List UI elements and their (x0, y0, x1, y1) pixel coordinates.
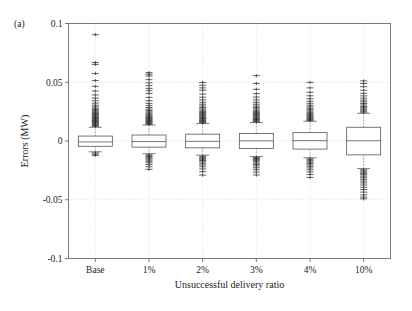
x-tick-label: 1% (143, 265, 156, 275)
x-tick-label: Base (86, 265, 104, 275)
y-tick-label: -0.05 (43, 195, 63, 205)
x-tick-label: 4% (304, 265, 317, 275)
y-axis-title: Errors (MW) (19, 115, 31, 167)
boxplot-chart: 0.10.050-0.05-0.1Base1%2%3%4%10%Unsucces… (0, 0, 412, 311)
box-iqr (132, 135, 166, 147)
box-iqr (78, 136, 112, 146)
y-tick-label: 0 (58, 136, 63, 146)
x-tick-label: 2% (196, 265, 209, 275)
y-tick-label: 0.1 (51, 19, 63, 29)
panel-label: (a) (14, 19, 25, 30)
y-tick-label: 0.05 (46, 78, 63, 88)
figure-panel: 0.10.050-0.05-0.1Base1%2%3%4%10%Unsucces… (0, 0, 412, 311)
x-tick-label: 10% (355, 265, 373, 275)
x-axis-title: Unsuccessful delivery ratio (175, 279, 284, 290)
x-tick-label: 3% (250, 265, 263, 275)
y-tick-label: -0.1 (47, 254, 62, 264)
